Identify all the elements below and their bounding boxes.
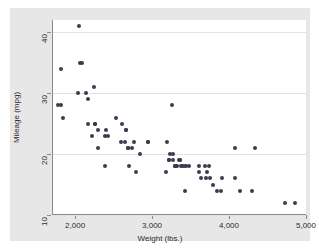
scatter-point: [103, 164, 107, 168]
scatter-point: [130, 146, 134, 150]
scatter-point: [165, 140, 169, 144]
scatter-point: [59, 103, 63, 107]
y-tick-label: 40: [40, 32, 49, 46]
scatter-point: [170, 103, 174, 107]
scatter-point: [220, 176, 224, 180]
scatter-point: [86, 97, 90, 101]
scatter-point: [293, 201, 297, 205]
scatter-point: [77, 24, 81, 28]
scatter-point: [96, 146, 100, 150]
scatter-point: [208, 176, 212, 180]
scatter-point: [233, 146, 237, 150]
y-axis-title: Mileage (mpg): [12, 82, 21, 152]
x-axis-title: Weight (lbs.): [10, 234, 310, 243]
scatter-point: [106, 134, 110, 138]
scatter-point: [134, 170, 138, 174]
scatter-point: [250, 189, 254, 193]
scatter-point: [219, 189, 223, 193]
scatter-point: [171, 158, 175, 162]
scatter-point: [197, 170, 201, 174]
gridline: [53, 32, 306, 33]
x-tick-label: 4,000: [219, 221, 239, 230]
scatter-point: [187, 164, 191, 168]
y-tick-label: 10: [40, 215, 49, 229]
x-tick-label: 5,000: [296, 221, 316, 230]
x-tick-mark: [306, 215, 307, 219]
gridline: [53, 93, 306, 94]
x-tick-label: 3,000: [142, 221, 162, 230]
scatter-point: [183, 189, 187, 193]
scatter-point: [171, 152, 175, 156]
gridline: [53, 154, 306, 155]
y-tick-label: 20: [40, 154, 49, 168]
scatter-point: [76, 91, 80, 95]
scatter-point: [164, 170, 168, 174]
scatter-point: [119, 140, 123, 144]
x-tick-label: 2,000: [65, 221, 85, 230]
scatter-point: [123, 140, 127, 144]
scatter-point: [114, 116, 118, 120]
scatter-point: [86, 122, 90, 126]
gridline: [53, 215, 306, 216]
scatter-point: [207, 164, 211, 168]
scatter-point: [120, 122, 124, 126]
scatter-point: [211, 183, 215, 187]
scatter-point: [238, 189, 242, 193]
scatter-point: [283, 201, 287, 205]
scatter-point: [205, 170, 209, 174]
plot-area: [52, 20, 306, 215]
scatter-point: [199, 176, 203, 180]
scatter-point: [59, 67, 63, 71]
y-tick-label: 30: [40, 93, 49, 107]
scatter-point: [233, 176, 237, 180]
scatter-point: [178, 158, 182, 162]
scatter-point: [104, 128, 108, 132]
scatter-point: [127, 164, 131, 168]
graph-region: Mileage (mpg) 10203040 2,0003,0004,0005,…: [10, 8, 310, 241]
scatter-point: [84, 91, 88, 95]
scatter-plot-screenshot: Mileage (mpg) 10203040 2,0003,0004,0005,…: [0, 0, 319, 249]
scatter-point: [146, 140, 150, 144]
scatter-point: [203, 164, 207, 168]
scatter-point: [253, 146, 257, 150]
scatter-point: [93, 122, 97, 126]
scatter-point: [138, 152, 142, 156]
scatter-point: [197, 164, 201, 168]
scatter-point: [126, 146, 130, 150]
scatter-point: [132, 140, 136, 144]
scatter-point: [90, 134, 94, 138]
scatter-point: [96, 128, 100, 132]
scatter-point: [80, 61, 84, 65]
scatter-point: [92, 85, 96, 89]
scatter-point: [124, 128, 128, 132]
scatter-point: [61, 116, 65, 120]
